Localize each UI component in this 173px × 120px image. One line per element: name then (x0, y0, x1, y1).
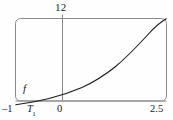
x-axis-label-zero: 0 (57, 104, 62, 115)
curve-label-f: f (23, 83, 26, 94)
x-axis-label-left: –1 (2, 104, 13, 115)
y-axis-label-12: 12 (55, 2, 66, 13)
plot-area (0, 0, 173, 120)
x-axis-label-right: 2.5 (150, 104, 163, 115)
t1-subscript: 1 (32, 110, 36, 118)
x-axis-label-t1: T1 (27, 104, 36, 117)
plot-frame (16, 19, 167, 102)
function-curve (16, 19, 166, 105)
graph-figure: 12 –1 T1 0 2.5 f (0, 0, 173, 120)
